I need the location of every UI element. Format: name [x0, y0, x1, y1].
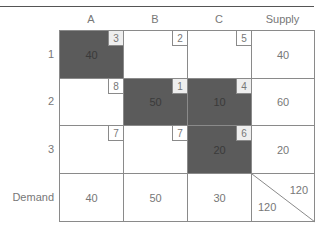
allocation-value: 20: [213, 144, 225, 156]
totals-cell: 120120: [251, 173, 315, 222]
unit-cost-box: 6: [236, 125, 252, 141]
supply-3: 20: [251, 125, 315, 174]
unit-cost-box: 3: [108, 30, 124, 46]
demand-total: 120: [258, 201, 276, 213]
demand-a: 40: [59, 173, 124, 222]
row-label-1: 1: [0, 30, 54, 78]
cell-2-a: 8: [59, 78, 124, 126]
allocation-value: 50: [149, 96, 161, 108]
unit-cost-box: 8: [108, 78, 124, 94]
diagonal-divider: [252, 174, 316, 223]
unit-cost-box: 4: [236, 78, 252, 94]
top-rule: [0, 6, 314, 7]
cell-1-c: 5: [187, 30, 252, 79]
column-header-a: A: [59, 10, 123, 28]
cell-3-b: 7: [123, 125, 188, 174]
supply-total: 120: [290, 184, 308, 196]
cell-1-a: 403: [59, 30, 124, 79]
unit-cost-box: 7: [108, 125, 124, 141]
unit-cost-box: 1: [172, 78, 188, 94]
allocation-value: 40: [85, 49, 97, 61]
row-label-2: 2: [0, 78, 54, 125]
cell-3-c: 206: [187, 125, 252, 174]
column-header-c: C: [187, 10, 251, 28]
demand-b: 50: [123, 173, 188, 222]
unit-cost-box: 5: [236, 30, 252, 46]
row-label-demand: Demand: [0, 173, 54, 221]
supply-1: 40: [251, 30, 315, 79]
unit-cost-box: 7: [172, 125, 188, 141]
cell-2-b: 501: [123, 78, 188, 126]
unit-cost-box: 2: [172, 30, 188, 46]
cell-3-a: 7: [59, 125, 124, 174]
row-label-3: 3: [0, 125, 54, 173]
cell-1-b: 2: [123, 30, 188, 79]
allocation-value: 10: [213, 96, 225, 108]
column-header-b: B: [123, 10, 187, 28]
supply-2: 60: [251, 78, 315, 126]
cell-2-c: 104: [187, 78, 252, 126]
demand-c: 30: [187, 173, 252, 222]
column-header-supply: Supply: [251, 10, 314, 28]
